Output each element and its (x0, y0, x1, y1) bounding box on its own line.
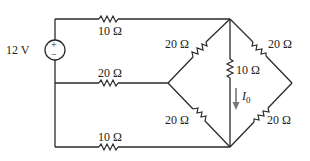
wire-ll-b (207, 123, 230, 147)
current-label: I0 (241, 89, 251, 105)
wire-ur-a (230, 19, 253, 42)
current-arrow-down-icon (233, 102, 240, 110)
resistor-middle-icon (99, 80, 118, 86)
resistor-diamond-ll-label: 20 Ω (165, 113, 189, 127)
wire-ur-b (266, 56, 292, 83)
current-indicator: I0 (233, 88, 252, 110)
resistor-top-label: 10 Ω (98, 24, 122, 38)
resistor-bottom-label: 10 Ω (98, 130, 122, 144)
resistor-diamond-ul-icon (192, 42, 207, 57)
resistor-bottom-icon (99, 144, 118, 150)
circuit-diagram: + − 12 V 10 Ω 20 Ω 10 Ω 20 Ω 20 Ω 20 Ω 2… (0, 0, 310, 161)
resistor-top-icon (99, 16, 118, 22)
wire-ul-b (206, 19, 230, 42)
resistor-diamond-ll-icon (193, 108, 207, 123)
resistor-center-label: 10 Ω (236, 63, 260, 77)
wire-ul-a (168, 57, 193, 83)
source-label: 12 V (6, 43, 30, 57)
voltage-source: + − 12 V (6, 39, 65, 60)
resistor-center-icon (227, 59, 233, 78)
wire-lr-b (230, 122, 254, 147)
wire-ll-a (168, 83, 193, 109)
resistor-diamond-ul-label: 20 Ω (165, 37, 189, 51)
wire-lr-a (268, 83, 292, 108)
resistor-diamond-ur-label: 20 Ω (268, 37, 292, 51)
source-minus-sign: − (51, 49, 57, 60)
resistor-diamond-ur-icon (252, 42, 266, 56)
resistor-diamond-lr-label: 20 Ω (267, 113, 291, 127)
resistor-middle-label: 20 Ω (98, 66, 122, 80)
